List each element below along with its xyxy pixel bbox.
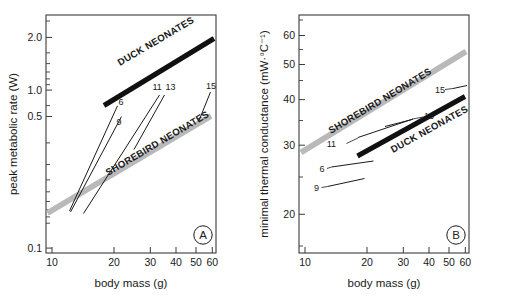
annotation-15: 15 — [206, 81, 216, 91]
y-tick-label: 40 — [283, 93, 295, 105]
x-tick-labels-b: 10 20 30 40 50 60 — [299, 256, 471, 268]
panel-a-plot: 2.0 1.0 0.5 0.1 10 20 30 40 50 — [0, 0, 253, 307]
x-axis-title-b: body mass (g) — [348, 277, 421, 289]
y-tick-label: 20 — [283, 208, 295, 220]
leader-15 — [445, 89, 453, 90]
panel-b-plot: 60 50 40 30 20 10 20 30 40 50 — [253, 0, 506, 307]
x-tick-label: 50 — [190, 256, 202, 268]
x-tick-label: 50 — [443, 256, 455, 268]
x-tick-label: 60 — [206, 256, 218, 268]
x-axis-title-a: body mass (g) — [95, 277, 168, 289]
plot-frame-b — [299, 15, 469, 253]
panel-letter-a: A — [194, 226, 212, 244]
annotation-9: 9 — [117, 117, 122, 127]
annotation-13: 13 — [424, 111, 434, 121]
annotation-6: 6 — [319, 164, 324, 174]
x-tick-label: 10 — [46, 256, 58, 268]
segment-6 — [332, 161, 374, 167]
x-tick-label: 30 — [144, 256, 156, 268]
x-tick-label: 60 — [459, 256, 471, 268]
y-tick-labels-b: 60 50 40 30 20 — [283, 29, 295, 220]
panel-a: 2.0 1.0 0.5 0.1 10 20 30 40 50 — [0, 0, 253, 307]
annotation-15: 15 — [435, 85, 445, 95]
panel-b: 60 50 40 30 20 10 20 30 40 50 — [253, 0, 506, 307]
x-tick-label: 30 — [397, 256, 409, 268]
y-tick-label: 50 — [283, 58, 295, 70]
y-tick-label: 60 — [283, 29, 295, 41]
y-tick-label: 2.0 — [27, 31, 42, 43]
y-axis-title-b: minimal thermal conductance (mW·°C⁻¹) — [258, 30, 270, 238]
figure-root: 2.0 1.0 0.5 0.1 10 20 30 40 50 — [0, 0, 506, 307]
x-tick-labels-a: 10 20 30 40 50 60 — [46, 256, 218, 268]
y-axis-ticks-b — [299, 20, 305, 246]
panel-letter-text: B — [452, 229, 460, 241]
y-tick-labels-a: 2.0 1.0 0.5 0.1 — [27, 31, 42, 254]
y-axis-title-a: peak metabolic rate (W) — [7, 73, 19, 195]
x-tick-label: 40 — [423, 256, 435, 268]
y-tick-label: 30 — [283, 139, 295, 151]
x-tick-label: 40 — [170, 256, 182, 268]
x-axis-ticks-a — [52, 247, 212, 253]
annotation-6: 6 — [119, 97, 124, 107]
annotation-13: 13 — [166, 82, 176, 92]
x-tick-label: 20 — [361, 256, 373, 268]
x-tick-label: 20 — [108, 256, 120, 268]
leader-9 — [322, 187, 328, 188]
segment-9 — [328, 179, 365, 187]
x-tick-label: 10 — [299, 256, 311, 268]
panel-letter-b: B — [447, 226, 465, 244]
annotation-9: 9 — [314, 183, 319, 193]
y-tick-label: 0.5 — [27, 110, 42, 122]
annotation-11: 11 — [327, 139, 336, 149]
leader-11 — [347, 138, 359, 144]
y-tick-label: 0.1 — [27, 242, 42, 254]
segment-15 — [453, 86, 467, 89]
x-axis-ticks-b — [305, 247, 465, 253]
panel-letter-text: A — [199, 229, 207, 241]
leader-6 — [327, 167, 332, 169]
segment-6 — [70, 106, 118, 211]
y-tick-label: 1.0 — [27, 84, 42, 96]
annotation-11: 11 — [153, 82, 162, 92]
